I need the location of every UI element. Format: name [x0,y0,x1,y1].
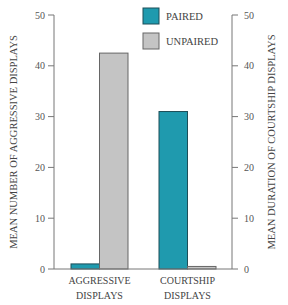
legend: PAIREDUNPAIRED [143,8,219,49]
left-tick-label: 0 [40,264,45,275]
right-tick-label: 10 [244,213,254,224]
right-tick-label: 0 [244,264,249,275]
right-tick-label: 20 [244,162,254,173]
legend-label-paired: PAIRED [166,11,203,22]
category-label: DISPLAYS [164,290,211,301]
category-label: COURTSHIP [160,275,215,286]
left-y-axis-title: MEAN NUMBER OF AGGRESSIVE DISPLAYS [8,35,19,249]
left-tick-label: 40 [35,60,45,71]
bars [71,53,216,269]
left-tick-label: 50 [35,10,45,21]
right-tick-label: 40 [244,60,254,71]
left-tick-label: 20 [35,162,45,173]
legend-swatch-paired [143,8,159,24]
category-labels: AGGRESSIVEDISPLAYSCOURTSHIPDISPLAYS [68,275,215,301]
legend-label-unpaired: UNPAIRED [166,36,219,47]
bar-unpaired-aggressive [100,53,129,269]
right-y-axis: 01020304050 [232,10,254,275]
category-label: AGGRESSIVE [68,275,130,286]
left-tick-label: 30 [35,111,45,122]
left-tick-label: 10 [35,213,45,224]
left-y-axis: 01020304050 [35,10,54,275]
bar-paired-aggressive [71,264,100,269]
bar-chart: 01020304050 01020304050 AGGRESSIVEDISPLA… [0,0,288,305]
right-y-axis-title: MEAN DURATION OF COURTSHIP DISPLAYS [266,34,277,249]
bar-paired-courtship [159,112,188,269]
legend-swatch-unpaired [143,33,159,49]
right-tick-label: 50 [244,10,254,21]
category-label: DISPLAYS [76,290,123,301]
right-tick-label: 30 [244,111,254,122]
